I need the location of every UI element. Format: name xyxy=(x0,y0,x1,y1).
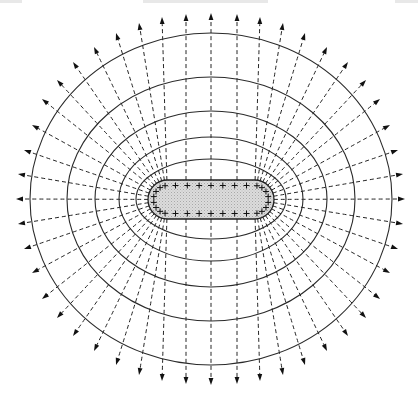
field-line-19 xyxy=(61,214,154,314)
arrowhead-icon xyxy=(257,17,262,24)
arrowhead-icon xyxy=(116,358,121,365)
field-line-12 xyxy=(258,29,282,180)
arrowhead-icon xyxy=(391,244,398,249)
arrowhead-icon xyxy=(342,62,348,69)
arrowhead-icon xyxy=(160,374,165,381)
arrowhead-icon xyxy=(24,150,31,155)
arrowhead-icon xyxy=(322,344,327,351)
field-line-48 xyxy=(272,209,385,270)
field-line-41 xyxy=(37,209,150,270)
arrowhead-icon xyxy=(73,62,79,69)
field-line-33 xyxy=(268,214,362,314)
arrowhead-icon xyxy=(235,14,240,21)
field-line-7 xyxy=(162,23,167,180)
arrowhead-icon xyxy=(396,173,403,178)
arrowhead-icon xyxy=(383,268,390,273)
arrowhead-icon xyxy=(396,221,403,226)
arrowhead-icon xyxy=(18,221,25,226)
arrowhead-icon xyxy=(94,47,99,54)
arrowhead-icon xyxy=(16,197,23,202)
arrowhead-icon xyxy=(73,329,79,336)
field-line-28 xyxy=(255,219,260,375)
field-line-16 xyxy=(268,84,362,185)
field-line-24 xyxy=(162,219,167,375)
arrowhead-icon xyxy=(398,197,405,202)
arrowhead-icon xyxy=(18,173,25,178)
field-line-44 xyxy=(274,175,397,196)
arrowhead-icon xyxy=(184,14,189,21)
arrowhead-icon xyxy=(138,368,143,375)
arrowhead-icon xyxy=(160,17,165,24)
field-line-35 xyxy=(37,128,150,190)
field-diagram xyxy=(0,0,418,396)
arrowhead-icon xyxy=(24,244,31,249)
arrowhead-icon xyxy=(373,293,380,299)
arrowhead-icon xyxy=(257,374,262,381)
field-line-6 xyxy=(140,29,164,180)
arrowhead-icon xyxy=(301,33,306,40)
arrowhead-icon xyxy=(280,23,285,30)
arrowhead-icon xyxy=(116,33,121,40)
field-line-36 xyxy=(30,152,149,193)
arrowhead-icon xyxy=(32,268,39,273)
arrowhead-icon xyxy=(301,358,306,365)
charged-conductor xyxy=(148,180,274,219)
arrowhead-icon xyxy=(184,377,189,384)
arrowhead-icon xyxy=(383,125,390,131)
arrowhead-icon xyxy=(209,378,214,385)
field-line-43 xyxy=(273,152,392,193)
arrowhead-icon xyxy=(235,377,240,384)
arrowhead-icon xyxy=(138,23,143,30)
field-line-11 xyxy=(255,23,260,180)
field-line-42 xyxy=(272,128,385,190)
arrowhead-icon xyxy=(42,293,49,299)
arrowhead-icon xyxy=(391,150,398,155)
field-line-2 xyxy=(61,84,154,185)
arrowhead-icon xyxy=(280,368,285,375)
arrowhead-icon xyxy=(322,47,327,54)
arrowhead-icon xyxy=(342,329,348,336)
arrowhead-icon xyxy=(32,125,39,131)
arrowhead-icon xyxy=(94,344,99,351)
arrowhead-icon xyxy=(209,13,214,20)
